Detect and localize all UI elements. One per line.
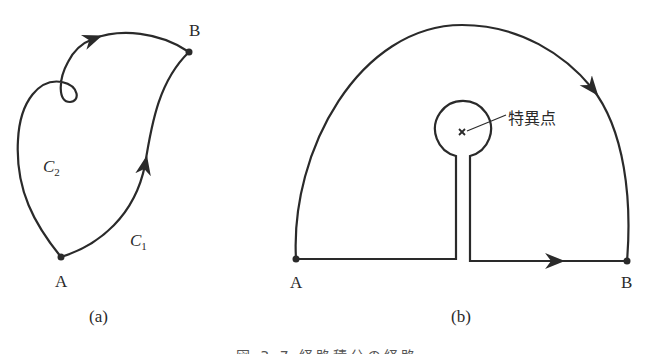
path-c1-label: C1 xyxy=(130,231,147,252)
figure-canvas: A B C2 C1 (a) 特異点 A B (b) xyxy=(0,0,654,354)
outer-arc-right xyxy=(592,88,628,261)
outer-arc xyxy=(296,25,592,259)
panel-b: 特異点 A B (b) xyxy=(290,25,632,326)
point-a-label: A xyxy=(55,272,68,291)
point-b-dot xyxy=(186,49,193,56)
figure-caption: 図 3.7 経路積分の経路 xyxy=(0,345,654,354)
figure-caption-strip: 図 3.7 経路積分の経路 xyxy=(0,343,654,354)
singular-point-label: 特異点 xyxy=(508,109,556,128)
point-a-dot xyxy=(58,254,65,261)
path-c1-upper xyxy=(145,52,189,165)
panel-b-caption: (b) xyxy=(451,307,471,326)
point-b-label: B xyxy=(189,21,200,40)
point-b-dot-b xyxy=(624,258,631,265)
path-c2-label: C2 xyxy=(43,157,60,178)
path-c2 xyxy=(18,39,93,257)
point-a-label-b: A xyxy=(290,273,303,292)
panel-a: A B C2 C1 (a) xyxy=(18,21,201,326)
singular-point-marker xyxy=(459,129,465,135)
singular-point-leader xyxy=(467,115,506,131)
path-c2-upper xyxy=(93,33,189,52)
point-b-label-b: B xyxy=(621,273,632,292)
point-a-dot-b xyxy=(293,256,300,263)
panel-a-caption: (a) xyxy=(89,307,108,326)
